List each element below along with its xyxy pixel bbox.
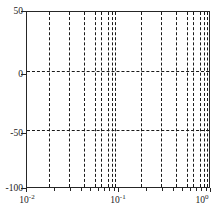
- x-minor-tick-mark: [70, 188, 71, 191]
- x-minor-tick-mark: [182, 188, 183, 191]
- figure-container: 50 0 -50 -100 10-2 10-1 100: [0, 0, 218, 222]
- vertical-dashed-line: [176, 12, 177, 187]
- vertical-dashed-line: [161, 12, 162, 187]
- vertical-dashed-line: [115, 12, 116, 187]
- y-tick-label: 50: [0, 6, 23, 16]
- x-tick-exponent: -1: [120, 193, 126, 201]
- vertical-dashed-line: [84, 12, 85, 187]
- x-minor-tick-mark: [201, 188, 202, 191]
- x-minor-tick-mark: [162, 188, 163, 191]
- vertical-dashed-line: [101, 12, 102, 187]
- vertical-dashed-line: [69, 12, 70, 187]
- x-minor-tick-mark: [190, 188, 191, 191]
- vertical-dashed-line: [204, 12, 205, 187]
- vertical-dashed-line: [209, 12, 210, 187]
- vertical-dashed-line: [200, 12, 201, 187]
- x-tick-label: 10-1: [103, 195, 133, 205]
- vertical-dashed-line: [108, 12, 109, 187]
- vertical-dashed-line: [141, 12, 142, 187]
- x-minor-tick-mark: [54, 188, 55, 191]
- x-tick-exponent: -2: [29, 193, 35, 201]
- x-minor-tick-mark: [81, 188, 82, 191]
- x-minor-tick-mark: [114, 188, 115, 191]
- plot-area: [26, 11, 210, 188]
- x-minor-tick-mark: [109, 188, 110, 191]
- zero-db-reference-line: [27, 71, 209, 72]
- y-tick-label: -100: [0, 183, 23, 193]
- x-tick-mantissa: 10: [110, 195, 120, 205]
- x-minor-tick-mark: [90, 188, 91, 191]
- vertical-dashed-line: [112, 12, 113, 187]
- x-tick-mantissa: 10: [19, 195, 29, 205]
- vertical-dashed-line: [193, 12, 194, 187]
- x-minor-tick-mark: [104, 188, 105, 191]
- y-tick-label: -50: [0, 128, 23, 138]
- x-tick-mark: [26, 188, 27, 192]
- y-tick-label: 0: [0, 69, 23, 79]
- minus-fifty-db-reference-line: [27, 130, 209, 131]
- x-tick-mark: [118, 188, 119, 192]
- x-tick-mark: [210, 188, 211, 192]
- x-minor-tick-mark: [196, 188, 197, 191]
- x-minor-tick-mark: [173, 188, 174, 191]
- x-minor-tick-mark: [206, 188, 207, 191]
- vertical-dashed-line: [207, 12, 208, 187]
- x-minor-tick-mark: [146, 188, 147, 191]
- x-tick-mantissa: 10: [196, 195, 206, 205]
- vertical-dashed-line: [187, 12, 188, 187]
- vertical-dashed-line: [95, 12, 96, 187]
- x-tick-label: 10-2: [12, 195, 42, 205]
- x-tick-label: 100: [187, 195, 217, 205]
- x-minor-tick-mark: [98, 188, 99, 191]
- vertical-dashed-line: [49, 12, 50, 187]
- x-tick-exponent: 0: [205, 193, 209, 201]
